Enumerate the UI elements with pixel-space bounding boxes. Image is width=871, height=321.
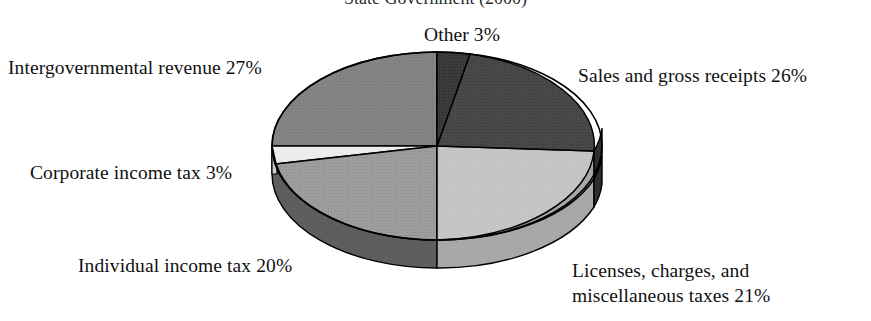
slice-label-sales-and-gross-receipts: Sales and gross receipts 26% (578, 63, 807, 88)
pie-chart-figure: State Government (2000) (0, 0, 871, 321)
slice-label-intergovernmental-revenue: Intergovernmental revenue 27% (8, 55, 262, 80)
slice-label-licenses-charges: Licenses, charges, and miscellaneous tax… (572, 258, 862, 308)
slice-label-corporate-income-tax: Corporate income tax 3% (30, 160, 232, 185)
slice-intergovernmental[interactable] (272, 52, 437, 146)
slice-label-individual-income-tax: Individual income tax 20% (78, 253, 292, 278)
slice-label-other: Other 3% (424, 22, 500, 47)
slice-label-licenses-line1: Licenses, charges, and (572, 258, 862, 283)
slice-label-licenses-line2: miscellaneous taxes 21% (572, 283, 862, 308)
